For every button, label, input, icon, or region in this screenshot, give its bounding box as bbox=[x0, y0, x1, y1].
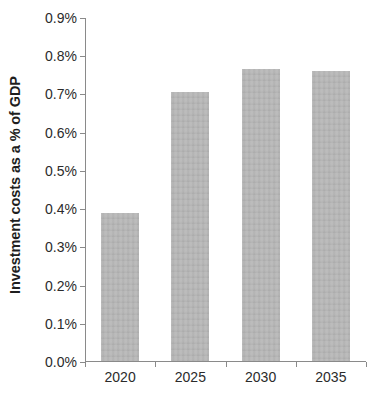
y-axis-tick-label: 0.7% bbox=[45, 87, 77, 101]
x-axis-tick-mark bbox=[155, 362, 156, 367]
x-axis-tick-mark bbox=[366, 362, 367, 367]
y-axis-tick-label: 0.0% bbox=[45, 355, 77, 369]
x-axis-tick-label-2035: 2035 bbox=[315, 370, 346, 384]
y-axis-tick-mark bbox=[80, 286, 85, 287]
y-axis-tick-label: 0.9% bbox=[45, 11, 77, 25]
x-axis-tick-label-2020: 2020 bbox=[105, 370, 136, 384]
x-axis-tick-label-2025: 2025 bbox=[175, 370, 206, 384]
y-axis-tick-label: 0.1% bbox=[45, 317, 77, 331]
y-axis-tick-mark bbox=[80, 209, 85, 210]
x-axis-tick-mark bbox=[296, 362, 297, 367]
bar-2030 bbox=[242, 69, 280, 361]
y-axis-tick-label: 0.6% bbox=[45, 126, 77, 140]
y-axis-tick-mark bbox=[80, 133, 85, 134]
plot-area bbox=[85, 18, 366, 362]
y-axis-tick-label: 0.5% bbox=[45, 164, 77, 178]
y-axis-tick-label: 0.8% bbox=[45, 49, 77, 63]
bar-2035 bbox=[312, 71, 350, 361]
y-axis-title-text: Investment costs as a % of GDP bbox=[7, 76, 23, 294]
y-axis-tick-label: 0.2% bbox=[45, 279, 77, 293]
y-axis-tick-mark bbox=[80, 324, 85, 325]
y-axis-title: Investment costs as a % of GDP bbox=[0, 0, 30, 370]
y-axis-tick-mark bbox=[80, 18, 85, 19]
y-axis-tick-mark bbox=[80, 94, 85, 95]
x-axis-tick-mark bbox=[226, 362, 227, 367]
y-axis-tick-mark bbox=[80, 247, 85, 248]
y-axis-line bbox=[85, 18, 86, 362]
y-axis-tick-mark bbox=[80, 171, 85, 172]
y-axis-tick-label: 0.4% bbox=[45, 202, 77, 216]
bar-chart: Investment costs as a % of GDP 0.0%0.1%0… bbox=[0, 0, 384, 403]
x-axis-tick-label-2030: 2030 bbox=[245, 370, 276, 384]
x-axis-tick-mark bbox=[85, 362, 86, 367]
bar-2025 bbox=[171, 92, 209, 361]
x-axis-tick-labels: 2020202520302035 bbox=[85, 370, 366, 394]
y-axis-tick-mark bbox=[80, 56, 85, 57]
y-axis-tick-labels: 0.0%0.1%0.2%0.3%0.4%0.5%0.6%0.7%0.8%0.9% bbox=[30, 0, 80, 403]
bar-2020 bbox=[101, 213, 139, 361]
y-axis-tick-label: 0.3% bbox=[45, 240, 77, 254]
